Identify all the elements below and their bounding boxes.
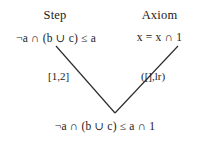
edge-label-right: ([],lr) bbox=[141, 70, 165, 82]
edge-label-left: [1,2] bbox=[48, 70, 69, 82]
inference-step-diagram: Step Axiom ¬a ∩ (b ∪ c) ≤ a x = x ∩ 1 [1… bbox=[0, 0, 207, 142]
conclusion-formula: ¬a ∩ (b ∪ c) ≤ a ∩ 1 bbox=[17, 119, 193, 133]
